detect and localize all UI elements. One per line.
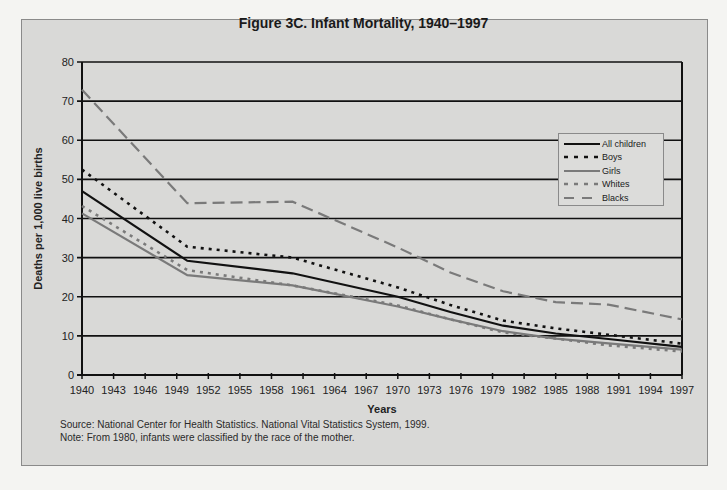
x-tick-label: 1946	[133, 384, 157, 396]
source-note: Source: National Center for Health Stati…	[60, 418, 429, 431]
x-tick-label: 1976	[449, 384, 473, 396]
y-tick-label: 80	[62, 56, 74, 68]
legend-swatch-icon	[562, 153, 600, 161]
x-tick-label: 1958	[259, 384, 283, 396]
legend-swatch-icon	[562, 140, 600, 148]
x-tick-label: 1970	[386, 384, 410, 396]
line-chart: 0102030405060708019401943194619491952195…	[0, 0, 727, 490]
legend-item-whites: Whites	[559, 178, 663, 192]
footnotes: Source: National Center for Health Stati…	[60, 418, 429, 444]
legend-swatch-icon	[562, 167, 600, 175]
x-tick-label: 1967	[354, 384, 378, 396]
classification-note: Note: From 1980, infants were classified…	[60, 431, 429, 444]
legend-swatch-icon	[562, 194, 600, 202]
x-tick-label: 1961	[291, 384, 315, 396]
legend-item-blacks: Blacks	[559, 191, 663, 205]
legend-label: Girls	[602, 166, 621, 176]
y-tick-label: 40	[62, 213, 74, 225]
x-tick-label: 1982	[512, 384, 536, 396]
x-tick-label: 1973	[417, 384, 441, 396]
x-tick-label: 1994	[638, 384, 662, 396]
y-tick-label: 70	[62, 95, 74, 107]
x-tick-label: 1997	[670, 384, 694, 396]
legend-label: All children	[602, 139, 646, 149]
series-girls	[82, 213, 682, 349]
legend-label: Whites	[602, 179, 630, 189]
legend-label: Blacks	[602, 193, 629, 203]
x-tick-label: 1979	[480, 384, 504, 396]
x-tick-label: 1952	[196, 384, 220, 396]
x-tick-label: 1955	[228, 384, 252, 396]
x-tick-label: 1940	[70, 384, 94, 396]
y-axis-label: Deaths per 1,000 live births	[32, 147, 44, 289]
y-tick-label: 20	[62, 291, 74, 303]
legend: All childrenBoysGirlsWhitesBlacks	[558, 133, 664, 206]
x-tick-label: 1949	[164, 384, 188, 396]
legend-swatch-icon	[562, 180, 600, 188]
y-tick-label: 50	[62, 173, 74, 185]
legend-item-boys: Boys	[559, 151, 663, 165]
legend-item-all-children: All children	[559, 137, 663, 151]
x-tick-label: 1991	[607, 384, 631, 396]
x-tick-label: 1988	[575, 384, 599, 396]
x-tick-label: 1943	[101, 384, 125, 396]
y-tick-label: 10	[62, 330, 74, 342]
y-tick-label: 30	[62, 252, 74, 264]
x-tick-label: 1964	[322, 384, 346, 396]
series-all-children	[82, 191, 682, 347]
x-axis-label: Years	[367, 403, 396, 415]
y-tick-label: 60	[62, 134, 74, 146]
series-whites	[82, 206, 682, 352]
legend-item-girls: Girls	[559, 164, 663, 178]
legend-label: Boys	[602, 152, 622, 162]
x-tick-label: 1985	[543, 384, 567, 396]
y-tick-label: 0	[68, 369, 74, 381]
